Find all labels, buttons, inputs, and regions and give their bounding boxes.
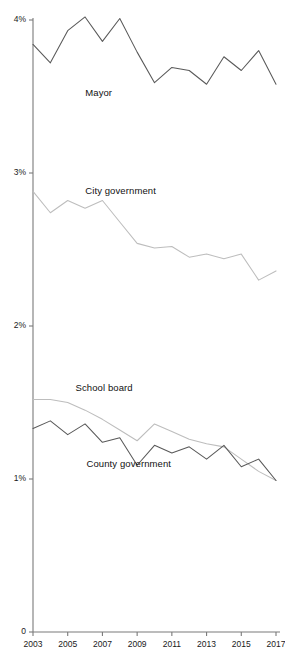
series-line-mayor xyxy=(33,17,276,84)
series-label-city-government: City government xyxy=(85,186,156,196)
series-label-mayor: Mayor xyxy=(85,88,112,98)
series-lines xyxy=(33,17,276,481)
y-axis xyxy=(29,18,33,632)
series-label-county-government: County government xyxy=(86,459,171,469)
y-tick-label: 0 xyxy=(21,627,26,636)
y-tick-label: 4% xyxy=(14,15,26,24)
x-axis xyxy=(33,632,280,636)
line-chart: 01%2%3%4% 200320052007200920112013201520… xyxy=(0,0,285,657)
series-label-school-board: School board xyxy=(76,383,133,393)
series-line-county-government xyxy=(33,421,276,481)
y-tick-label: 1% xyxy=(14,474,26,483)
x-axis-ticks xyxy=(33,632,276,636)
y-tick-label: 3% xyxy=(14,168,26,177)
y-axis-ticks xyxy=(29,20,33,632)
chart-plot-area xyxy=(0,0,285,657)
x-tick-label: 2017 xyxy=(256,640,285,649)
y-tick-label: 2% xyxy=(14,321,26,330)
series-line-city-government xyxy=(33,191,276,280)
